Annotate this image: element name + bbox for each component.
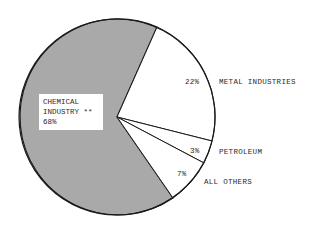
others-name-label: ALL OTHERS [204,178,252,187]
petroleum-name-label: PETROLEUM [219,148,262,157]
others-pct-label: 7% [177,170,187,179]
petroleum-pct-label: 3% [190,147,200,156]
metal-pct-label: 22% [185,78,199,87]
chemical-industry-label-box: CHEMICAL INDUSTRY ** 68% [39,94,103,130]
chemical-pct-label: 68% [39,117,103,127]
chemical-label-line1: CHEMICAL [39,97,103,107]
chemical-label-line2: INDUSTRY ** [39,107,103,117]
metal-name-label: METAL INDUSTRIES [219,78,296,87]
